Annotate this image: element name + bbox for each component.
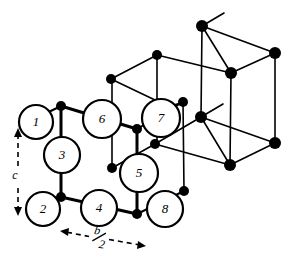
numbered-atom: 3 xyxy=(44,137,80,173)
lattice-node xyxy=(132,124,142,134)
atom-number-label: 4 xyxy=(96,200,103,215)
lattice-node xyxy=(106,74,116,84)
lattice-node xyxy=(132,209,142,219)
numbered-atom: 2 xyxy=(26,192,60,226)
lattice-bond xyxy=(201,26,202,117)
lattice-node xyxy=(179,186,189,196)
atom-number-label: 2 xyxy=(40,201,47,216)
lattice-node xyxy=(150,139,160,149)
numbered-atom: 8 xyxy=(147,191,183,227)
numbered-atom: 6 xyxy=(83,100,121,138)
lattice-bond xyxy=(183,102,184,191)
crystal-lattice-figure: 12345678 c b 2 xyxy=(0,0,292,264)
crystal-lattice-svg: 12345678 c b 2 xyxy=(0,0,292,264)
atom-number-label: 6 xyxy=(99,111,106,126)
numbered-atom: 7 xyxy=(142,99,180,137)
lattice-node xyxy=(225,67,237,79)
lattice-node xyxy=(107,163,117,173)
lattice-node xyxy=(178,97,188,107)
atom-number-label: 3 xyxy=(58,147,66,162)
atom-number-label: 1 xyxy=(33,114,40,129)
atom-number-label: 8 xyxy=(162,201,169,216)
lattice-node xyxy=(269,137,281,149)
atom-number-label: 7 xyxy=(158,110,165,125)
atom-number-label: 5 xyxy=(136,165,143,180)
numbered-atom: 4 xyxy=(81,190,117,226)
numbered-atom: 1 xyxy=(19,105,53,139)
numbered-atom: 5 xyxy=(120,154,158,192)
lattice-node xyxy=(152,50,162,60)
lattice-node xyxy=(224,159,236,171)
c-axis-label: c xyxy=(12,168,18,182)
lattice-bond xyxy=(230,73,231,165)
lattice-node xyxy=(195,111,207,123)
lattice-node xyxy=(196,20,208,32)
lattice-node xyxy=(56,101,66,111)
lattice-node xyxy=(269,47,281,59)
